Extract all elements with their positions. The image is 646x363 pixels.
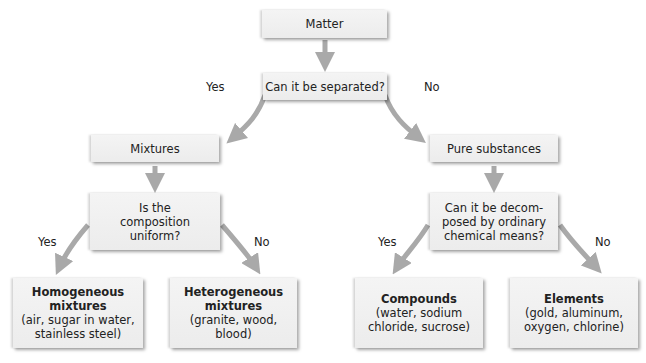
edge-label-composition-yes: Yes [38,235,57,249]
node-elements-ex2: oxygen, chlorine) [524,320,624,334]
node-composition-line1: Is the [139,201,171,215]
arrow-separated-mixtures [234,95,265,137]
node-pure-label: Pure substances [447,142,541,156]
node-decomposable: Can it be decom- posed by ordinary chemi… [430,193,558,250]
node-elements-title: Elements [544,292,604,306]
arrow-composition-homogeneous [60,225,88,266]
node-decompose-line3: chemical means? [444,229,544,243]
node-mixtures: Mixtures [91,135,219,162]
node-heterogeneous-mixtures: Heterogeneous mixtures (granite, wood, b… [170,278,297,348]
node-decompose-line1: Can it be decom- [445,201,544,215]
node-compounds-ex2: chloride, sucrose) [368,320,470,334]
node-compounds-ex1: (water, sodium [376,306,463,320]
node-homogeneous-title2: mixtures [49,299,106,313]
edge-label-decompose-yes: Yes [378,235,397,249]
node-decompose-line2: posed by ordinary [442,215,546,229]
node-elements: Elements (gold, aluminum, oxygen, chlori… [510,278,638,348]
node-matter: Matter [262,10,387,38]
node-homogeneous-title1: Homogeneous [32,285,124,299]
node-composition-uniform: Is the composition uniform? [90,193,220,250]
node-heterogeneous-ex1: (granite, wood, [190,313,277,327]
node-compounds-title: Compounds [381,292,457,306]
node-homogeneous-ex1: (air, sugar in water, [21,313,134,327]
arrow-decompose-elements [560,225,595,266]
node-matter-label: Matter [306,17,344,31]
arrow-separated-pure [385,95,418,137]
node-mixtures-label: Mixtures [130,142,179,156]
node-compounds: Compounds (water, sodium chloride, sucro… [355,278,483,348]
arrow-composition-heterogeneous [222,225,255,266]
node-elements-ex1: (gold, aluminum, [525,306,623,320]
edge-label-composition-no: No [254,235,270,249]
node-separated-label: Can it be separated? [265,80,385,94]
edge-label-decompose-no: No [595,235,611,249]
node-separated: Can it be separated? [263,73,387,100]
edge-label-separated-yes: Yes [206,80,225,94]
node-composition-line2: composition [120,215,190,229]
node-homogeneous-ex2: stainless steel) [35,327,121,341]
node-heterogeneous-title2: mixtures [205,299,262,313]
node-composition-line3: uniform? [130,229,181,243]
node-heterogeneous-title1: Heterogeneous [184,285,283,299]
node-pure-substances: Pure substances [430,135,558,162]
node-homogeneous-mixtures: Homogeneous mixtures (air, sugar in wate… [13,278,143,348]
node-heterogeneous-ex2: blood) [215,327,251,341]
arrow-decompose-compounds [398,225,428,266]
edge-label-separated-no: No [424,80,440,94]
